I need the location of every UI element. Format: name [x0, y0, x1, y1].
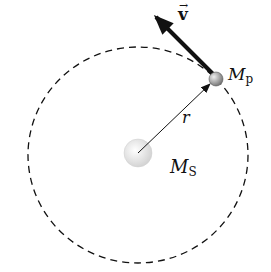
planet-body: [209, 72, 223, 86]
velocity-vector: [156, 17, 213, 74]
vector-arrow-icon: →: [179, 0, 188, 14]
radius-label: r: [182, 108, 190, 127]
orbit-diagram: → v Mp r MS: [0, 0, 271, 272]
radius-vector: [138, 84, 210, 153]
velocity-label: → v: [178, 6, 188, 23]
sun-mass-label: MS: [170, 156, 197, 179]
planet-mass-label: Mp: [228, 64, 253, 86]
diagram-graphics: [0, 0, 271, 272]
